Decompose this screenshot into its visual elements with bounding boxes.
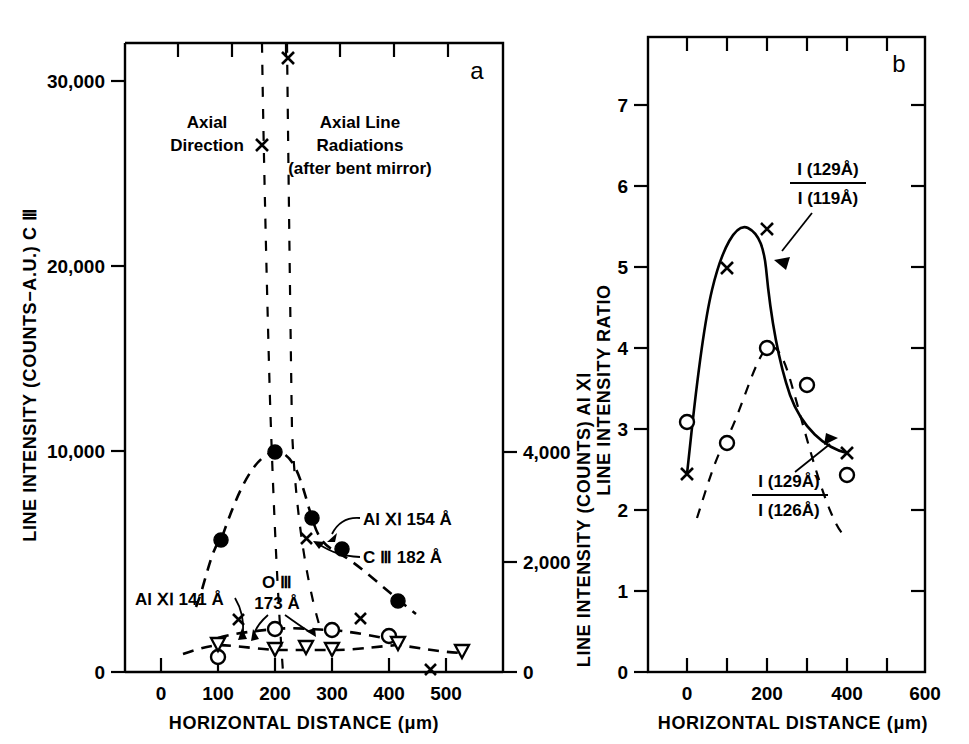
panel-b-ytick-2: 2 <box>617 500 628 521</box>
series-ratio-129-126-markers <box>680 341 854 482</box>
label-ratio-129-119-denominator: I (119Å) <box>798 189 858 208</box>
panel-b-top-ticks <box>687 37 887 51</box>
panel-b-left-ticks <box>634 105 648 672</box>
panel-a-ytick-30000: 30,000 <box>47 71 105 92</box>
series-c-vi-182-curve <box>196 452 416 614</box>
panel-b-right-ticks <box>911 105 925 591</box>
panel-a-right-ytick-0: 0 <box>523 662 534 683</box>
axial-line-radiations-line2: Radiations <box>317 136 404 155</box>
panel-a-ytick-20000: 20,000 <box>47 256 105 277</box>
label-o-vi-173-line2: 173 Å <box>254 594 299 613</box>
panel-a-ytick-10000: 10,000 <box>47 441 105 462</box>
panel-a-annotation-axial-direction: Axial Direction <box>170 113 244 155</box>
panel-a-left-ticks <box>111 81 125 672</box>
axial-direction-line2: Direction <box>170 136 244 155</box>
panel-a-yaxis-left-title: LINE INTENSITY (COUNTS−A.U.) C Ⅲ <box>20 208 40 541</box>
panel-a-ytick-0: 0 <box>94 662 105 683</box>
panel-b-ytick-0: 0 <box>617 662 628 683</box>
panel-a: 30,000 20,000 10,000 0 4,000 2,000 0 0 1… <box>20 43 594 733</box>
panel-b-xtick-0: 0 <box>682 683 693 704</box>
panel-a-annotation-axial-line-radiations: Axial Line Radiations (after bent mirror… <box>288 113 432 178</box>
panel-a-yaxis-right-title: LINE INTENSITY (COUNTS) Al ⅩⅠ <box>574 373 594 667</box>
label-c-vi-182: C Ⅲ 182 Å <box>313 541 442 567</box>
panel-a-xaxis-title: HORIZONTAL DISTANCE (μm) <box>169 713 439 733</box>
panel-b-frame <box>648 37 925 672</box>
panel-b-ytick-6: 6 <box>617 176 628 197</box>
figure-canvas: 30,000 20,000 10,000 0 4,000 2,000 0 0 1… <box>0 0 969 744</box>
panel-a-right-ticks <box>503 452 517 672</box>
label-al-xi-141: Al ⅩⅠ 141 Å <box>135 590 247 640</box>
panel-b-bottom-ticks <box>687 658 887 672</box>
panel-a-xtick-300: 300 <box>316 683 348 704</box>
label-al-xi-154: Al ⅩⅠ 154 Å <box>327 510 452 542</box>
panel-a-bottom-ticks <box>161 658 446 672</box>
panel-a-xtick-200: 200 <box>259 683 291 704</box>
axial-line-radiations-line1: Axial Line <box>320 113 400 132</box>
panel-b-xaxis-title: HORIZONTAL DISTANCE (μm) <box>658 713 928 733</box>
panel-a-right-ytick-4000: 4,000 <box>523 442 571 463</box>
panel-b-ytick-7: 7 <box>617 95 628 116</box>
axial-direction-line1: Axial <box>187 113 228 132</box>
label-o-vi-173-line1: O Ⅲ <box>262 573 292 592</box>
panel-a-id: a <box>470 57 484 84</box>
panel-a-right-ytick-2000: 2,000 <box>523 552 571 573</box>
panel-b-xtick-400: 400 <box>831 683 863 704</box>
axial-line-radiations-line3: (after bent mirror) <box>288 159 432 178</box>
panel-a-top-ticks <box>178 43 448 57</box>
panel-b-ytick-3: 3 <box>617 419 628 440</box>
panel-a-xtick-400: 400 <box>373 683 405 704</box>
panel-b-id: b <box>892 50 905 77</box>
figure-root: 30,000 20,000 10,000 0 4,000 2,000 0 0 1… <box>0 0 969 744</box>
label-c-vi-182-text: C Ⅲ 182 Å <box>363 548 442 567</box>
panel-b-xtick-600: 600 <box>909 683 941 704</box>
label-ratio-129-126-numerator: I (129Å) <box>758 472 819 491</box>
label-ratio-129-119: I (129Å) I (119Å) <box>774 160 866 270</box>
label-ratio-129-119-numerator: I (129Å) <box>797 160 858 179</box>
panel-b-ytick-1: 1 <box>617 581 628 602</box>
panel-b-xtick-200: 200 <box>751 683 783 704</box>
label-ratio-129-126-denominator: I (126Å) <box>758 501 819 520</box>
panel-a-xtick-500: 500 <box>430 683 462 704</box>
panel-b-ytick-5: 5 <box>617 257 628 278</box>
label-ratio-129-126: I (129Å) I (126Å) <box>752 433 838 520</box>
label-al-xi-141-text: Al ⅩⅠ 141 Å <box>135 590 224 609</box>
panel-b-yaxis-title: LINE INTENSITY RATIO <box>594 284 614 495</box>
panel-b: 0 1 2 3 4 5 6 7 0 200 400 600 HORIZONTAL… <box>594 37 941 733</box>
panel-a-xtick-100: 100 <box>202 683 234 704</box>
panel-b-ytick-4: 4 <box>617 338 628 359</box>
panel-a-xtick-0: 0 <box>156 683 167 704</box>
label-al-xi-154-text: Al ⅩⅠ 154 Å <box>363 510 452 529</box>
